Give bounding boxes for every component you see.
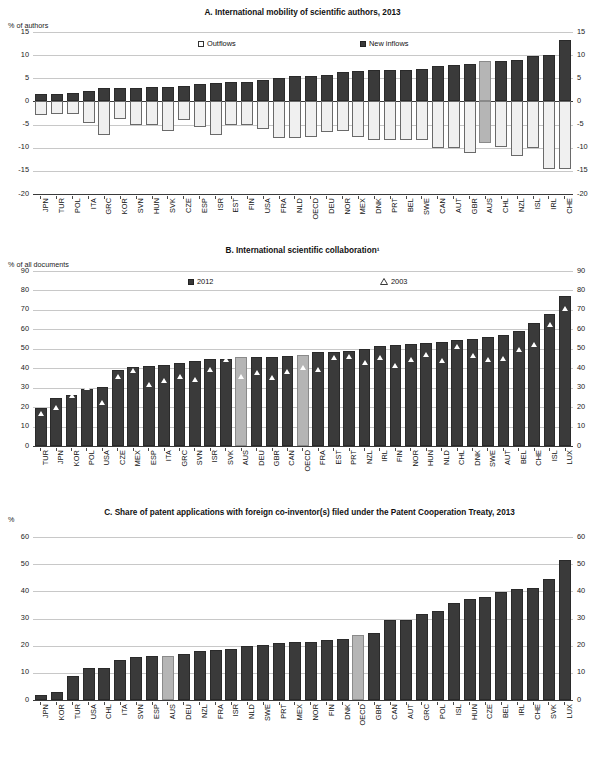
y-tick-left-50: 50 [21,344,33,351]
bar-slot [224,32,240,194]
y-tick-left-0: 0 [25,442,33,449]
marker-2003-SWE [485,357,491,362]
x-label-ESP: ESP [144,702,160,736]
marker-2003-CZE [115,374,121,379]
bar-SWE [482,337,494,446]
bar-slot [79,271,94,446]
x-label-CHL: CHL [493,196,509,230]
bar-LUX [559,560,571,700]
y-tick-left--15: -15 [18,166,33,173]
panel-a-legend-outflows: Outflows [198,39,236,48]
panel-c-title: C. Share of patent applications with for… [0,502,605,518]
marker-2003-TUR [38,411,44,416]
x-label-FRA: FRA [271,196,287,230]
panel-a-x-axis-labels: JPNTURPOLITAGRCKORSVNHUNSVKCZEESPISRESTF… [33,196,573,230]
bar-slot [271,537,287,700]
bar-slot [478,537,494,700]
y-tick-right-10: 10 [573,668,585,675]
x-label-DEU: DEU [319,196,335,230]
marker-2003-NZL [362,360,368,365]
bar-slot [366,32,382,194]
bar-OECD [305,76,317,102]
marker-2003-AUS [238,374,244,379]
bar-slot [319,32,335,194]
bar-BEL [400,70,412,101]
bar-JPN [35,94,47,101]
bar-CHL [451,340,463,446]
x-label-CHE: CHE [557,196,573,230]
y-tick-left-10: 10 [21,422,33,429]
gridline--20 [33,194,573,195]
x-label-IRL: IRL [509,702,525,736]
bar-TUR [67,676,79,700]
y-tick-left-70: 70 [21,305,33,312]
marker-2003-GBR [269,375,275,380]
x-label-KOR: KOR [112,196,128,230]
bar-outflow-CHL [495,101,507,147]
legend-label-outflows: Outflows [207,39,236,48]
x-label-PRT: PRT [271,702,287,736]
bar-series-container [33,32,573,194]
x-label-SVK: SVK [218,448,233,482]
y-tick-left-15: 15 [21,28,33,35]
bar-ITA [114,660,126,700]
x-label-CZE: CZE [478,702,494,736]
panel-a-legend-inflows: New inflows [360,39,408,48]
marker-2003-HUN [423,352,429,357]
panel-a-plot: 151510105500-5-5-10-10-15-15-20-20 [33,32,573,194]
x-label-NLD: NLD [434,448,449,482]
bar-slot [434,271,449,446]
bar-ESP [194,84,206,102]
x-label-CHE: CHE [527,448,542,482]
x-label-CAN: CAN [430,196,446,230]
y-tick-left-30: 30 [21,383,33,390]
bar-slot [33,537,49,700]
marker-2003-DEU [254,370,260,375]
bar-ESP [143,366,155,446]
bar-POL [81,389,93,446]
bar-FIN [241,82,253,102]
bar-slot [144,32,160,194]
bar-SWE [416,69,428,101]
bar-slot [112,537,128,700]
marker-2003-ESP [146,382,152,387]
x-label-SVN: SVN [128,196,144,230]
x-label-USA: USA [255,196,271,230]
bar-outflow-OECD [305,101,317,137]
x-label-GBR: GBR [264,448,279,482]
bar-FRA [210,650,222,700]
bar-DEU [321,75,333,101]
x-label-NZL: NZL [509,196,525,230]
bar-slot [419,271,434,446]
bar-slot [430,537,446,700]
y-tick-right-30: 30 [573,614,585,621]
bar-PRT [343,351,355,446]
y-tick-right-20: 20 [573,403,585,410]
bar-slot [525,537,541,700]
x-label-CHE: CHE [525,702,541,736]
y-tick-right--15: -15 [573,166,588,173]
bar-outflow-CAN [432,101,444,148]
bar-slot [126,271,141,446]
bar-slot [303,537,319,700]
panel-b-plot: 90908080707060605050404030302020101000 [33,271,573,446]
bar-slot [224,537,240,700]
bar-HUN [420,343,432,446]
bar-slot [446,32,462,194]
bar-slot [557,537,573,700]
bar-slot [172,271,187,446]
bar-slot [239,32,255,194]
x-label-MEX: MEX [126,448,141,482]
bar-USA [97,387,109,446]
y-tick-left-80: 80 [21,286,33,293]
bar-outflow-ITA [83,101,95,122]
marker-2003-GRC [177,374,183,379]
y-tick-right-90: 90 [573,267,585,274]
year-2012-swatch-icon [188,279,194,285]
bar-JPN [35,695,47,700]
bar-slot [218,271,233,446]
y-tick-left--5: -5 [22,120,33,127]
bar-slot [144,537,160,700]
x-label-POL: POL [65,196,81,230]
x-label-MEX: MEX [351,196,367,230]
